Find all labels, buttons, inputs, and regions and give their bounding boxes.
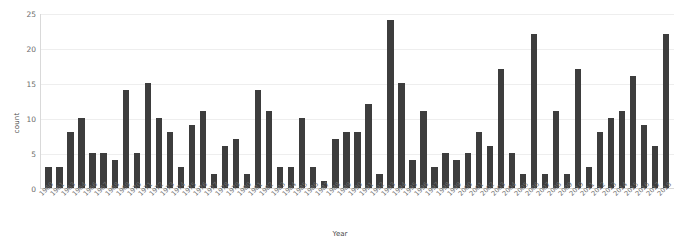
- bar[interactable]: [123, 90, 129, 188]
- bar-slot: [418, 14, 429, 188]
- bar-slot: [253, 14, 264, 188]
- bar-slot: [561, 14, 572, 188]
- x-slot: 1967: [97, 191, 108, 233]
- bar[interactable]: [266, 111, 272, 188]
- bar-slot: [407, 14, 418, 188]
- x-slot: 1964: [75, 191, 86, 233]
- y-tick-label: 5: [10, 150, 36, 159]
- bar-slot: [76, 14, 87, 188]
- x-slot: 1976: [197, 191, 208, 233]
- x-slot: 1978: [219, 191, 230, 233]
- x-slot: 1996: [418, 191, 429, 233]
- bar[interactable]: [420, 111, 426, 188]
- x-slot: 2011: [583, 191, 594, 233]
- bar-slot: [341, 14, 352, 188]
- bar[interactable]: [641, 125, 647, 188]
- x-slot: 2010: [572, 191, 583, 233]
- y-tick-label: 0: [10, 185, 36, 194]
- bar[interactable]: [553, 111, 559, 188]
- bar[interactable]: [299, 118, 305, 188]
- bar-slot: [573, 14, 584, 188]
- x-slot: 1969: [119, 191, 130, 233]
- bar-slot: [528, 14, 539, 188]
- x-slot: 1973: [164, 191, 175, 233]
- bar-slot: [495, 14, 506, 188]
- x-axis-title: Year: [0, 230, 680, 238]
- x-slot: 1988: [329, 191, 340, 233]
- y-tick-label: 25: [10, 10, 36, 19]
- bar[interactable]: [365, 104, 371, 188]
- x-slot: 2002: [484, 191, 495, 233]
- bar-slot: [650, 14, 661, 188]
- bar-slot: [98, 14, 109, 188]
- x-slot: 1961: [53, 191, 64, 233]
- bar-slot: [385, 14, 396, 188]
- x-slot: 2012: [594, 191, 605, 233]
- x-slot: 1985: [296, 191, 307, 233]
- y-axis-tick-labels: 0510152025: [6, 0, 36, 246]
- x-slot: 1999: [451, 191, 462, 233]
- bar[interactable]: [619, 111, 625, 188]
- bar[interactable]: [498, 69, 504, 188]
- bar-slot: [661, 14, 672, 188]
- bar-slot: [584, 14, 595, 188]
- bar-slot: [308, 14, 319, 188]
- y-tick-label: 20: [10, 45, 36, 54]
- bar-slot: [54, 14, 65, 188]
- bar-slot: [109, 14, 120, 188]
- x-slot: 1977: [208, 191, 219, 233]
- bar[interactable]: [663, 34, 669, 188]
- bar[interactable]: [575, 69, 581, 188]
- x-slot: 1974: [175, 191, 186, 233]
- bar[interactable]: [531, 34, 537, 188]
- bar[interactable]: [630, 76, 636, 188]
- x-slot: 1970: [130, 191, 141, 233]
- bar-slot: [473, 14, 484, 188]
- bar-slot: [231, 14, 242, 188]
- x-slot: 2016: [639, 191, 650, 233]
- x-slot: 1991: [362, 191, 373, 233]
- x-slot: 1998: [440, 191, 451, 233]
- bar-slot: [396, 14, 407, 188]
- bar-slot: [539, 14, 550, 188]
- bar-slot: [275, 14, 286, 188]
- bar-slot: [451, 14, 462, 188]
- bar[interactable]: [145, 83, 151, 188]
- y-tick-label: 10: [10, 115, 36, 124]
- bar-slot: [153, 14, 164, 188]
- bar-slot: [617, 14, 628, 188]
- bar[interactable]: [608, 118, 614, 188]
- bar-slot: [440, 14, 451, 188]
- x-slot: 1960: [42, 191, 53, 233]
- bar[interactable]: [398, 83, 404, 188]
- bar-slot: [639, 14, 650, 188]
- x-slot: 1966: [86, 191, 97, 233]
- bar-slot: [517, 14, 528, 188]
- x-slot: 2000: [462, 191, 473, 233]
- bar[interactable]: [387, 20, 393, 188]
- bar-slot: [142, 14, 153, 188]
- bar-slot: [550, 14, 561, 188]
- bar-slot: [286, 14, 297, 188]
- bar-slot: [595, 14, 606, 188]
- x-slot: 2014: [616, 191, 627, 233]
- bar[interactable]: [189, 125, 195, 188]
- x-slot: 2005: [517, 191, 528, 233]
- bar[interactable]: [597, 132, 603, 188]
- bar[interactable]: [255, 90, 261, 188]
- bar-slot: [330, 14, 341, 188]
- bar-slot: [484, 14, 495, 188]
- x-slot: 2015: [627, 191, 638, 233]
- bar-slot: [352, 14, 363, 188]
- x-slot: 1975: [186, 191, 197, 233]
- bar[interactable]: [200, 111, 206, 188]
- bar[interactable]: [156, 118, 162, 188]
- x-slot: 1990: [351, 191, 362, 233]
- x-slot: 1995: [407, 191, 418, 233]
- bar[interactable]: [78, 118, 84, 188]
- x-slot: 1987: [318, 191, 329, 233]
- bar-slot: [506, 14, 517, 188]
- bar-slot: [208, 14, 219, 188]
- bar-slot: [363, 14, 374, 188]
- x-axis-tick-labels: 1960196119631964196619671968196919701971…: [40, 191, 674, 233]
